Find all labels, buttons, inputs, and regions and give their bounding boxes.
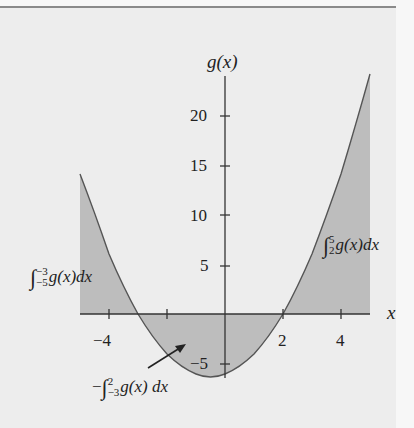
left-integral-label: ∫−3−5g(x)dx bbox=[30, 265, 92, 291]
y-axis-label: g(x) bbox=[207, 52, 238, 71]
x-axis-label: x bbox=[387, 303, 395, 322]
y-tick-20: 20 bbox=[190, 107, 207, 124]
x-tick-neg4: −4 bbox=[93, 332, 111, 349]
y-tick-10: 10 bbox=[190, 207, 207, 224]
middle-integral-label: −∫2−3g(x) dx bbox=[92, 375, 168, 401]
x-tick-4: 4 bbox=[336, 332, 345, 349]
x-tick-2: 2 bbox=[278, 332, 287, 349]
y-tick-15: 15 bbox=[190, 157, 207, 174]
y-tick-5: 5 bbox=[200, 257, 209, 274]
y-tick-neg5: −5 bbox=[190, 355, 208, 372]
right-integral-label: ∫52g(x)dx bbox=[323, 233, 379, 259]
